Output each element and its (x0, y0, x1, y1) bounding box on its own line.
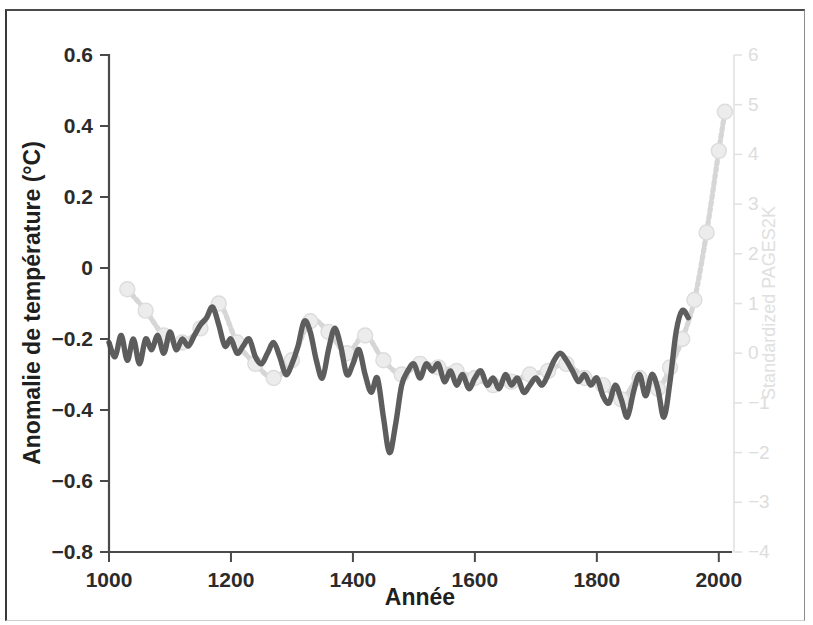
y-tick-label: −0.6 (52, 469, 93, 492)
y-tick-label: 0.6 (64, 43, 93, 66)
pages2k-marker (138, 303, 153, 318)
y-tick-label: −0.2 (52, 327, 93, 350)
x-tick-label: 1000 (86, 568, 133, 591)
right-y-tick-label: 5 (748, 94, 759, 115)
pages2k-marker (711, 143, 726, 158)
left-axis-title: Anomalie de température (°C) (19, 141, 45, 465)
right-y-tick-label: −2 (748, 442, 770, 463)
pages2k-marker (699, 225, 714, 240)
x-tick-label: 1600 (452, 568, 499, 591)
right-y-tick-label: 4 (748, 143, 759, 164)
y-tick-label: 0 (81, 256, 93, 279)
right-y-tick-label: −3 (748, 491, 770, 512)
bottom-axis-title: Année (385, 584, 455, 610)
left-axis: 0.60.40.20−0.2−0.4−0.6−0.8 1000120014001… (19, 43, 742, 610)
x-tick-label: 2000 (695, 568, 742, 591)
pages2k-series-line (127, 112, 725, 400)
pages2k-marker (358, 328, 373, 343)
x-tick-label: 1800 (573, 568, 620, 591)
right-y-tick-label: 2 (748, 243, 759, 264)
temperature-anomaly-chart: 6543210−1−2−3−4 Standardized PAGES2K 0.6… (0, 0, 813, 625)
data-series-group (109, 104, 732, 452)
y-tick-label: 0.4 (64, 114, 94, 137)
right-y-tick-label: 6 (748, 44, 759, 65)
right-y-tick-label: 1 (748, 293, 759, 314)
right-axis: 6543210−1−2−3−4 Standardized PAGES2K (734, 44, 779, 562)
right-y-tick-label: −4 (748, 541, 770, 562)
y-tick-label: −0.4 (52, 398, 94, 421)
x-tick-label: 1400 (330, 568, 377, 591)
right-y-tick-label: 0 (748, 342, 759, 363)
pages2k-marker (717, 104, 732, 119)
pages2k-marker (120, 282, 135, 297)
left-axis-ticks: 0.60.40.20−0.2−0.4−0.6−0.8 (52, 43, 109, 563)
right-axis-title: Standardized PAGES2K (759, 206, 779, 400)
pages2k-marker (266, 371, 281, 386)
x-tick-label: 1200 (208, 568, 255, 591)
left-bottom-axis-line (109, 55, 731, 552)
y-tick-label: −0.8 (52, 540, 94, 563)
figure-root: 6543210−1−2−3−4 Standardized PAGES2K 0.6… (0, 0, 813, 625)
y-tick-label: 0.2 (64, 185, 93, 208)
pages2k-marker (376, 353, 391, 368)
pages2k-marker (687, 292, 702, 307)
right-y-tick-label: 3 (748, 193, 759, 214)
